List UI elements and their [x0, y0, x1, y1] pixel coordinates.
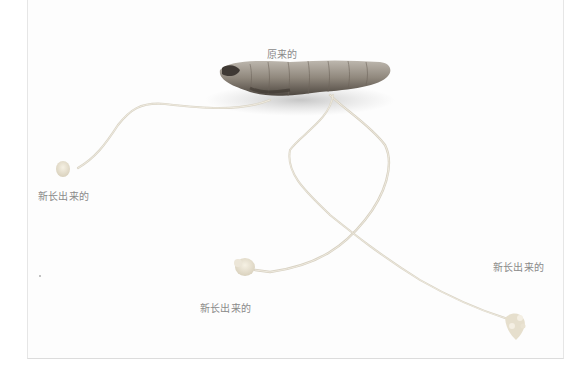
label-original: 原来的 — [267, 46, 298, 61]
speck — [39, 275, 41, 277]
runners — [78, 95, 505, 318]
shoot-bottom — [234, 258, 255, 276]
label-new-left: 新长出来的 — [38, 188, 89, 203]
label-new-right: 新长出来的 — [493, 259, 544, 274]
label-new-bottom: 新长出来的 — [200, 300, 251, 315]
shoot-left — [56, 161, 70, 177]
shoot-right — [505, 314, 526, 341]
